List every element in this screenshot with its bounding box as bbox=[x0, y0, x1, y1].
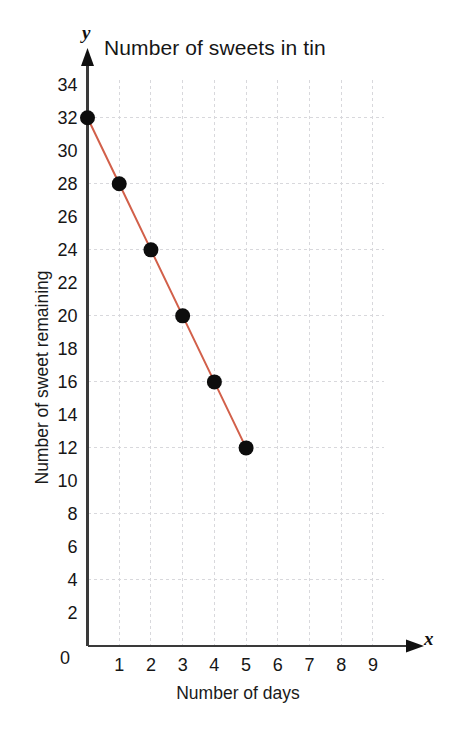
y-tick-label: 22 bbox=[44, 274, 78, 292]
y-tick-label: 34 bbox=[44, 76, 78, 94]
y-tick-label: 8 bbox=[44, 505, 78, 523]
x-tick-label: 8 bbox=[328, 656, 354, 674]
y-tick-label: 28 bbox=[44, 175, 78, 193]
y-tick-label: 16 bbox=[44, 373, 78, 391]
x-tick-label: 6 bbox=[265, 656, 291, 674]
y-tick-label: 30 bbox=[44, 142, 78, 160]
data-series-line bbox=[88, 118, 247, 448]
x-axis-arrow-icon bbox=[406, 640, 424, 653]
data-point-marker bbox=[143, 242, 158, 257]
x-tick-label: 9 bbox=[360, 656, 386, 674]
y-tick-label: 10 bbox=[44, 472, 78, 490]
y-tick-label: 32 bbox=[44, 109, 78, 127]
y-tick-label: 18 bbox=[44, 340, 78, 358]
y-tick-label: 24 bbox=[44, 241, 78, 259]
series-line bbox=[88, 118, 247, 448]
y-tick-label: 12 bbox=[44, 439, 78, 457]
data-point-marker bbox=[239, 440, 254, 455]
x-tick-label: 2 bbox=[138, 656, 164, 674]
x-tick-label: 4 bbox=[201, 656, 227, 674]
y-tick-label: 4 bbox=[44, 571, 78, 589]
data-point-marker bbox=[207, 374, 222, 389]
grid-lines bbox=[88, 80, 385, 646]
y-tick-label: 20 bbox=[44, 307, 78, 325]
y-tick-label: 6 bbox=[44, 538, 78, 556]
data-point-marker bbox=[175, 308, 190, 323]
y-tick-label: 26 bbox=[44, 208, 78, 226]
x-tick-label: 1 bbox=[106, 656, 132, 674]
x-tick-label: 5 bbox=[233, 656, 259, 674]
x-tick-label: 3 bbox=[170, 656, 196, 674]
y-tick-label: 2 bbox=[44, 604, 78, 622]
data-point-marker bbox=[112, 176, 127, 191]
data-point-marker bbox=[80, 110, 95, 125]
y-axis-arrow-icon bbox=[81, 48, 94, 66]
chart-figure: Number of sweets in tin y x Number of sw… bbox=[0, 0, 455, 753]
x-tick-label: 7 bbox=[297, 656, 323, 674]
y-tick-label: 14 bbox=[44, 406, 78, 424]
